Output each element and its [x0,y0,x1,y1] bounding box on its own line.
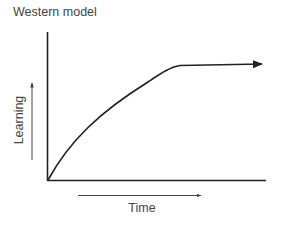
y-axis-label: Learning [12,96,26,145]
x-axis-label: Time [128,201,155,215]
learning-curve [48,64,262,180]
learning-curve-diagram: Learning Time [0,0,281,237]
